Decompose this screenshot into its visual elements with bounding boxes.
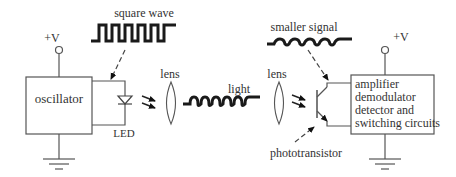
light-label: light bbox=[228, 82, 251, 96]
smaller-signal-label: smaller signal bbox=[271, 20, 339, 34]
ground-left-icon bbox=[43, 159, 75, 169]
receiver-line-2: demodulator bbox=[355, 90, 416, 104]
lens-right-icon bbox=[275, 82, 284, 124]
phototransistor-icon bbox=[317, 87, 327, 121]
phototransistor-pointer-arrow bbox=[295, 127, 314, 142]
lens-right-label: lens bbox=[267, 67, 287, 81]
ground-right-icon bbox=[369, 159, 401, 169]
led-wire-top bbox=[92, 81, 125, 96]
square-wave-signal bbox=[91, 25, 176, 41]
receiver-line-4: switching circuits bbox=[355, 116, 440, 130]
led-wire-bottom bbox=[92, 104, 125, 125]
smaller-signal-pointer-arrow bbox=[308, 50, 328, 80]
square-wave-pointer-arrow bbox=[111, 50, 125, 79]
emitted-light-arrows bbox=[142, 96, 155, 108]
receiver-line-3: detector and bbox=[355, 103, 414, 117]
light-signal bbox=[183, 97, 260, 106]
received-light-arrows bbox=[292, 95, 305, 107]
collector-wire bbox=[327, 83, 351, 87]
smaller-signal-wave bbox=[267, 39, 352, 45]
lens-left-icon bbox=[167, 82, 176, 124]
led-diode-icon bbox=[118, 96, 132, 104]
supply-right-terminal bbox=[382, 47, 389, 54]
supply-left-terminal bbox=[56, 47, 63, 54]
emitter-wire bbox=[327, 121, 351, 126]
lens-left-label: lens bbox=[160, 67, 180, 81]
supply-right-label: +V bbox=[393, 30, 409, 44]
supply-left-label: +V bbox=[44, 31, 60, 45]
phototransistor-label: phototransistor bbox=[270, 146, 342, 160]
receiver-line-1: amplifier bbox=[355, 77, 399, 91]
square-wave-label: square wave bbox=[114, 6, 174, 20]
optical-link-diagram: square wave +V oscillator LED lens light… bbox=[0, 0, 456, 177]
led-label: LED bbox=[113, 127, 134, 139]
oscillator-label: oscillator bbox=[35, 91, 84, 106]
